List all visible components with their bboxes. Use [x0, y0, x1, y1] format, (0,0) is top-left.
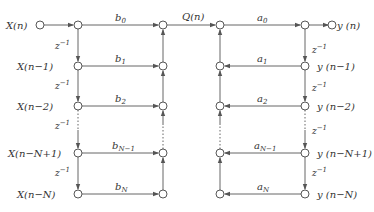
- right-label-4: y (n−N): [316, 189, 357, 200]
- a-branches: [224, 25, 301, 194]
- middle-label: Q(n): [182, 11, 205, 22]
- svg-text:z−1: z−1: [54, 79, 70, 91]
- svg-text:z−1: z−1: [311, 166, 327, 178]
- output-node: [328, 21, 336, 29]
- svg-text:bN: bN: [115, 181, 128, 194]
- a-coeff-labels: a0 a1 a2 aN−1 aN: [254, 12, 276, 194]
- input-label: X(n): [5, 20, 27, 31]
- svg-text:b1: b1: [115, 53, 126, 66]
- svg-text:aN: aN: [257, 181, 270, 194]
- svg-text:aN−1: aN−1: [254, 140, 276, 153]
- output-label: y (n): [336, 20, 360, 31]
- svg-text:z−1: z−1: [54, 166, 70, 178]
- svg-text:bN−1: bN−1: [112, 140, 135, 153]
- right-label-3: y (n−N+1): [316, 148, 372, 159]
- svg-text:z−1: z−1: [54, 119, 70, 131]
- left-label-4: X(n−N): [16, 189, 56, 200]
- svg-text:b2: b2: [115, 93, 126, 106]
- svg-text:a1: a1: [257, 53, 267, 66]
- input-node: [36, 21, 44, 29]
- left-label-3: X(n−N+1): [7, 148, 61, 159]
- svg-text:z−1: z−1: [311, 81, 327, 93]
- svg-text:a0: a0: [257, 12, 268, 25]
- svg-text:a2: a2: [257, 93, 268, 106]
- b-coeff-labels: b0 b1 b2 bN−1 bN: [112, 12, 135, 194]
- b-branches: [82, 25, 158, 194]
- svg-text:z−1: z−1: [54, 39, 70, 51]
- right-label-1: y (n−1): [316, 61, 355, 72]
- svg-text:b0: b0: [115, 12, 126, 25]
- left-label-1: X(n−1): [16, 61, 53, 72]
- svg-text:z−1: z−1: [311, 43, 327, 55]
- right-label-2: y (n−2): [316, 101, 355, 112]
- left-label-2: X(n−2): [16, 101, 53, 112]
- signal-flow-diagram: X(n) z−1 z−1 z−1 z−1 X(n−1) X(n−2) X(n−N…: [0, 0, 374, 212]
- svg-text:z−1: z−1: [311, 124, 327, 136]
